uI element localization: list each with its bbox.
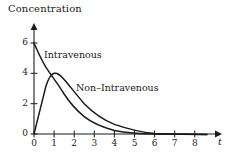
x-tick-label-8: 8 bbox=[189, 138, 201, 148]
concentration-vs-time-figure: Concentration Intravenous bbox=[0, 0, 230, 161]
y-tick-label-0: 0 bbox=[16, 128, 28, 138]
curve-label-non-intravenous: Non–Intravenous bbox=[76, 82, 159, 93]
axes bbox=[31, 23, 222, 137]
x-tick-label-1: 1 bbox=[48, 138, 60, 148]
curve-label-intravenous: Intravenous bbox=[44, 49, 102, 60]
x-axis-variable-label: t bbox=[218, 136, 222, 147]
x-tick-label-5: 5 bbox=[129, 138, 141, 148]
plot-area bbox=[0, 0, 230, 161]
y-tick-label-2: 2 bbox=[16, 98, 28, 108]
x-tick-label-7: 7 bbox=[169, 138, 181, 148]
y-tick-label-6: 6 bbox=[16, 37, 28, 47]
x-tick-label-6: 6 bbox=[149, 138, 161, 148]
y-axis-arrowhead bbox=[31, 23, 38, 30]
y-tick-label-4: 4 bbox=[16, 67, 28, 77]
x-tick-label-2: 2 bbox=[68, 138, 80, 148]
x-tick-label-3: 3 bbox=[88, 138, 100, 148]
x-tick-label-0: 0 bbox=[28, 138, 40, 148]
x-tick-label-4: 4 bbox=[108, 138, 120, 148]
